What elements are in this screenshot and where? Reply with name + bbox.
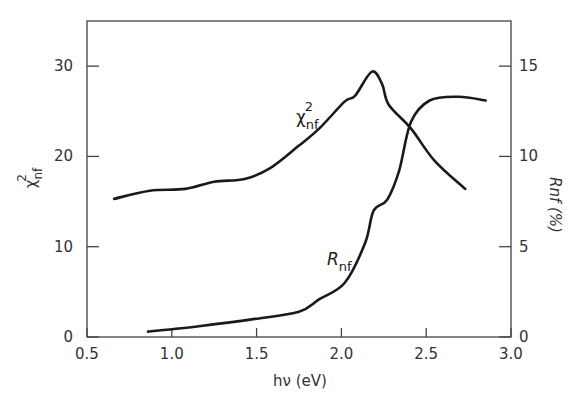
reflectance-curve-label: Rnf <box>327 249 352 274</box>
plot-frame <box>87 21 511 337</box>
right-y-axis-ticks: 051015 <box>499 57 538 346</box>
right-y-tick-label: 0 <box>519 328 529 346</box>
x-tick-label: 3.0 <box>499 345 523 363</box>
left-y-tick-label: 30 <box>54 57 73 75</box>
x-tick-label: 1.5 <box>245 345 269 363</box>
chi-squared-curve <box>114 71 465 199</box>
chi-squared-curve-label: χnf2 <box>296 99 319 132</box>
svg-text:Rnf (%): Rnf (%) <box>546 177 564 233</box>
chart: 0.51.01.52.02.53.0 0102030 051015 hν (eV… <box>0 0 576 401</box>
right-y-tick-label: 5 <box>519 238 529 256</box>
x-tick-label: 2.5 <box>414 345 438 363</box>
x-tick-label: 1.0 <box>160 345 184 363</box>
left-y-tick-label: 10 <box>54 238 73 256</box>
x-tick-label: 2.0 <box>329 345 353 363</box>
svg-text:χnf2: χnf2 <box>15 167 45 188</box>
x-axis-ticks: 0.51.01.52.02.53.0 <box>75 328 523 363</box>
left-y-tick-label: 0 <box>63 328 73 346</box>
x-tick-label: 0.5 <box>75 345 99 363</box>
right-y-axis-label: Rnf (%) <box>546 177 564 233</box>
left-y-axis-label: χnf2 <box>15 167 45 188</box>
left-y-tick-label: 20 <box>54 147 73 165</box>
right-y-tick-label: 15 <box>519 57 538 75</box>
left-y-axis-ticks: 0102030 <box>54 57 99 346</box>
x-axis-label: hν (eV) <box>273 372 327 390</box>
right-y-tick-label: 10 <box>519 147 538 165</box>
